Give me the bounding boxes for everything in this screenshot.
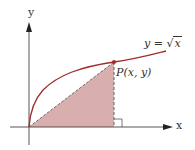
y-axis-label: y <box>28 7 34 18</box>
diagram-canvas <box>0 0 195 150</box>
curve-label-radicand: x <box>173 36 181 50</box>
point-p-marker <box>112 60 116 64</box>
right-angle-marker <box>114 119 122 127</box>
y-axis-arrow-icon <box>26 22 32 32</box>
curve-label: y = √x <box>144 38 182 49</box>
x-axis-arrow-icon <box>163 124 173 130</box>
curve-label-lhs: y = <box>144 37 163 50</box>
point-p-label: P(x, y) <box>116 67 151 78</box>
x-axis-label: x <box>176 120 182 131</box>
